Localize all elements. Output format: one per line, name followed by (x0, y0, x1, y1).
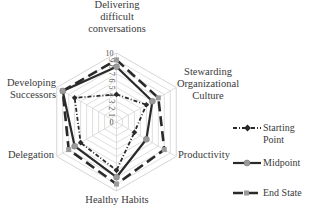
data-point-marker (162, 147, 167, 152)
tick-label: 6 (107, 79, 116, 83)
data-point-marker (114, 64, 120, 70)
data-point-marker (114, 167, 120, 173)
legend-label-line: Point (263, 134, 295, 146)
data-point-marker (132, 130, 138, 136)
data-point-marker (143, 136, 149, 142)
data-point-marker (72, 143, 78, 149)
axis-label: Delegation (8, 149, 55, 160)
legend-label-line: Starting (263, 122, 295, 134)
axis-label: Deliveringdifficultconversations (88, 0, 146, 34)
axis-label: DevelopingSuccessors (7, 77, 57, 100)
data-point-marker (114, 182, 119, 187)
tick-label: 1 (107, 113, 116, 117)
tick-label: 7 (107, 72, 116, 76)
legend-swatch-solid-circle-icon (232, 157, 262, 169)
data-point-marker (114, 57, 119, 62)
data-point-marker (60, 88, 66, 94)
axis-label: StewardingOrganizationalCulture (177, 66, 239, 101)
axis-label: Productivity (178, 149, 231, 160)
axis-label: Healthy Habits (85, 194, 148, 205)
legend-item-starting-point: Starting Point (232, 122, 295, 146)
tick-label: 2 (107, 106, 116, 110)
data-point-marker (156, 95, 161, 100)
legend-item-midpoint: Midpoint (232, 157, 300, 169)
data-point-marker (114, 174, 120, 180)
tick-label: 10 (106, 49, 114, 58)
data-point-marker (149, 98, 155, 104)
tick-label: 3 (107, 99, 116, 103)
tick-label: 5 (107, 86, 116, 90)
data-point-marker (66, 147, 71, 152)
legend-swatch-long-dash-square-icon (232, 187, 262, 199)
legend-swatch-dash-dot-diamond-icon (232, 122, 262, 134)
legend-item-end-state: End State (232, 187, 302, 199)
legend-label: End State (263, 187, 302, 199)
tick-label: 0 (110, 118, 114, 127)
radar-chart: 012345678910 Deliveringdifficultconversa… (0, 0, 312, 217)
legend-label: Midpoint (263, 157, 300, 169)
data-point-marker (144, 102, 150, 108)
axis-labels: DeliveringdifficultconversationsStewardi… (7, 0, 239, 205)
data-point-marker (72, 95, 78, 101)
